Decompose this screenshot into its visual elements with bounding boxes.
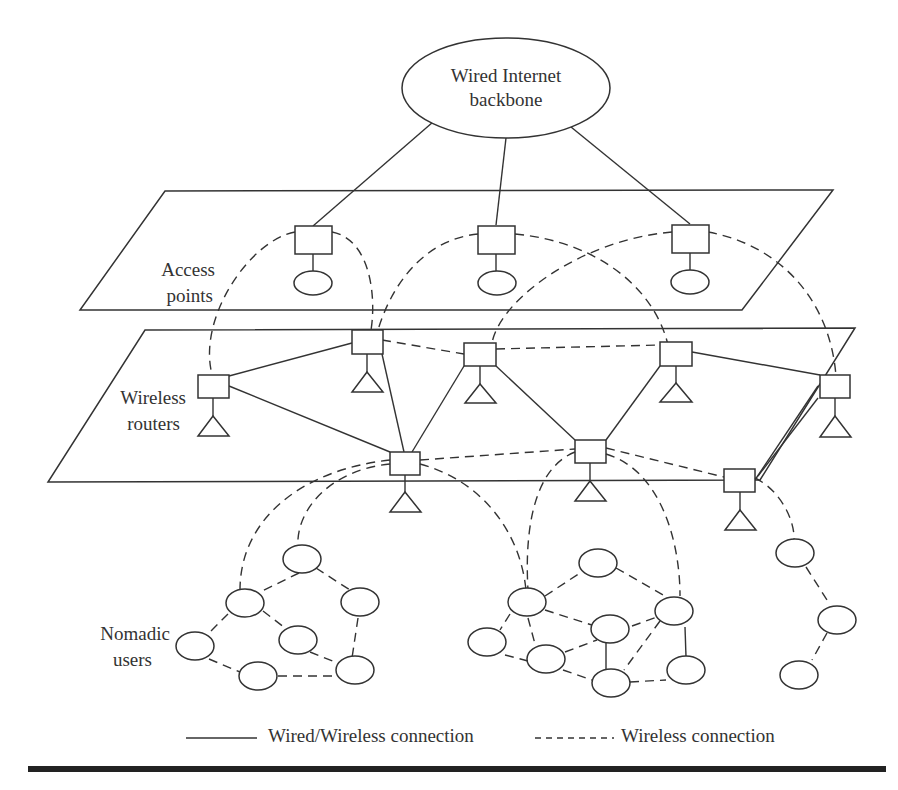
- wireless-router: [724, 469, 756, 530]
- user-node: [226, 589, 264, 617]
- user-node: [655, 597, 693, 625]
- user-node: [468, 628, 506, 656]
- backbone-label-line2: backbone: [470, 89, 543, 110]
- user-node: [527, 645, 565, 673]
- user-node: [818, 606, 856, 634]
- access-points-label-line2: points: [167, 285, 213, 306]
- wireless-routers-label-line1: Wireless: [120, 387, 186, 408]
- nomadic-user-cluster-left: [176, 545, 379, 690]
- user-links: [209, 567, 827, 682]
- user-node: [283, 545, 321, 573]
- access-point: [671, 225, 709, 294]
- user-node: [579, 549, 617, 577]
- user-node: [776, 539, 814, 567]
- legend-solid-label: Wired/Wireless connection: [268, 725, 474, 746]
- internet-backbone-node: [402, 38, 610, 138]
- wireless-router: [660, 342, 692, 402]
- wireless-router: [352, 330, 383, 392]
- user-node: [239, 662, 277, 690]
- router-wired-links: [229, 343, 820, 480]
- user-node: [667, 656, 705, 684]
- nomadic-user-cluster-right: [776, 539, 856, 689]
- access-point: [294, 226, 332, 295]
- wireless-mesh-network-diagram: Wired Internet backbone Access points: [0, 0, 898, 790]
- wireless-router: [464, 343, 496, 403]
- user-node: [176, 632, 214, 660]
- wireless-router: [820, 375, 851, 437]
- legend-dashed-label: Wireless connection: [621, 725, 775, 746]
- access-point: [478, 226, 516, 295]
- wireless-routers-label-line2: routers: [127, 413, 180, 434]
- wireless-router: [390, 452, 421, 512]
- access-points-label-line1: Access: [161, 259, 215, 280]
- user-node: [780, 661, 818, 689]
- wireless-router: [198, 375, 229, 436]
- nomadic-users-label-line1: Nomadic: [100, 623, 170, 644]
- nomadic-users-label-line2: users: [113, 649, 152, 670]
- user-node: [592, 669, 630, 697]
- user-node: [336, 656, 374, 684]
- wireless-router: [575, 440, 606, 501]
- user-node: [591, 615, 629, 643]
- user-node: [508, 588, 546, 616]
- nomadic-user-cluster-middle: [468, 549, 705, 697]
- user-node: [279, 626, 317, 654]
- legend: Wired/Wireless connection Wireless conne…: [186, 725, 775, 746]
- user-node: [341, 588, 379, 616]
- backbone-label-line1: Wired Internet: [451, 65, 562, 86]
